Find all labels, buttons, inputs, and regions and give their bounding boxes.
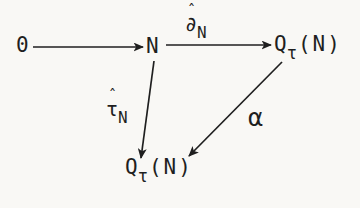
tau-subscript-N: N bbox=[118, 110, 128, 126]
tau-symbol: τ bbox=[106, 97, 118, 121]
q-argument: (N) bbox=[298, 32, 342, 56]
delta-symbol: ∂ bbox=[185, 12, 197, 36]
label-delta-hat-N: ˆ ∂N bbox=[185, 7, 207, 34]
commutative-diagram: 0 N Qτ(N) Qτ(N) ˆ ∂N ˆ τN α bbox=[0, 0, 360, 208]
node-Q-tau-N-top: Qτ(N) bbox=[274, 34, 342, 55]
q-base: Q bbox=[125, 155, 138, 179]
q-argument: (N) bbox=[149, 155, 193, 179]
q-subscript-tau: τ bbox=[287, 45, 297, 62]
label-alpha: α bbox=[248, 105, 263, 130]
q-subscript-tau: τ bbox=[138, 168, 148, 185]
arrow-Q-tau-N-top-to-bottom bbox=[189, 62, 282, 156]
delta-subscript-N: N bbox=[197, 25, 207, 41]
node-N: N bbox=[146, 36, 159, 57]
q-base: Q bbox=[274, 32, 287, 56]
node-Q-tau-N-bottom: Qτ(N) bbox=[125, 157, 193, 178]
label-tau-hat-N: ˆ τN bbox=[106, 92, 128, 119]
arrow-N-to-Q-tau-N-bottom bbox=[141, 61, 154, 158]
node-zero: 0 bbox=[16, 35, 29, 56]
